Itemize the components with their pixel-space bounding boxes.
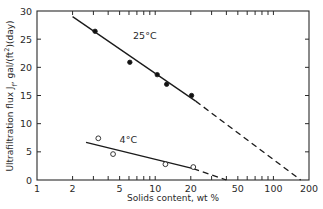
x-tick-label: 5 — [117, 183, 123, 194]
chart: 125102050100200051015202530 25°C4°C Soli… — [0, 0, 323, 209]
y-tick-label: 10 — [20, 118, 32, 129]
x-tick-label: 1 — [34, 183, 40, 194]
y-tick-label: 0 — [26, 175, 32, 186]
filled-circle-marker — [189, 93, 193, 97]
fit-line-dashed — [193, 169, 226, 180]
fit-lines — [73, 17, 301, 180]
y-tick-label: 5 — [26, 146, 32, 157]
y-tick-label: 15 — [20, 90, 32, 101]
plot-axes: 125102050100200051015202530 — [20, 6, 318, 195]
fit-line-dashed — [196, 101, 301, 180]
plot-frame — [37, 11, 309, 180]
y-tick-label: 25 — [20, 34, 32, 45]
fit-line-solid — [86, 142, 193, 168]
x-tick-label: 50 — [232, 183, 244, 194]
x-tick-label: 200 — [300, 183, 318, 194]
filled-circle-marker — [93, 29, 97, 33]
open-circle-marker — [163, 162, 168, 167]
series-labels: 25°C4°C — [120, 30, 157, 145]
x-tick-label: 2 — [70, 183, 76, 194]
x-tick-label: 100 — [264, 183, 282, 194]
open-circle-marker — [111, 152, 116, 157]
filled-circle-marker — [164, 82, 168, 86]
open-circle-marker — [96, 136, 101, 141]
y-tick-label: 30 — [20, 6, 32, 17]
series-annotation: 4°C — [120, 134, 138, 145]
y-tick-label: 20 — [20, 62, 32, 73]
y-axis-title: Ultrafiltration flux Jf, gal/(ft2)(day) — [3, 20, 19, 171]
open-circle-marker — [191, 165, 196, 170]
x-axis-title: Solids content, wt % — [127, 193, 219, 203]
filled-circle-marker — [128, 60, 132, 64]
filled-circle-marker — [155, 72, 159, 76]
series-annotation: 25°C — [133, 30, 157, 41]
